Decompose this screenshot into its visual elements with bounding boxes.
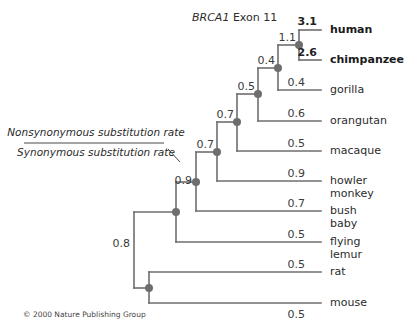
svg-text:0.5: 0.5: [288, 228, 306, 241]
taxon-rat: rat: [330, 265, 346, 278]
node-bushbaby: [192, 178, 200, 186]
terminal-rates: 3.1 2.6 0.4 0.6 0.5 0.9 0.7 0.5 0.5 0.5: [288, 15, 318, 321]
taxon-chimpanzee: chimpanzee: [330, 53, 404, 66]
taxon-gorilla: gorilla: [330, 83, 364, 96]
taxon-mouse: mouse: [330, 296, 367, 309]
node-flyinglemur: [172, 208, 180, 216]
internal-rates: 1.1 0.4 0.5 0.7 0.7 0.9 0.8: [113, 31, 297, 250]
svg-text:1.1: 1.1: [279, 31, 297, 44]
taxon-flyinglemur: flying: [330, 235, 360, 248]
legend-denominator: Synonymous substitution rate: [17, 146, 175, 158]
taxon-bushbaby-2: baby: [330, 217, 358, 230]
svg-text:0.5: 0.5: [288, 137, 306, 150]
svg-text:0.5: 0.5: [288, 308, 306, 321]
svg-text:0.6: 0.6: [288, 107, 306, 120]
node-gorilla: [274, 64, 282, 72]
svg-text:0.5: 0.5: [288, 258, 306, 271]
svg-text:0.7: 0.7: [288, 197, 306, 210]
svg-text:3.1: 3.1: [298, 15, 318, 28]
copyright: © 2000 Nature Publishing Group: [23, 310, 146, 319]
taxon-howler-2: monkey: [330, 187, 374, 200]
taxon-labels: human chimpanzee gorilla orangutan macaq…: [330, 23, 404, 309]
svg-text:0.8: 0.8: [113, 237, 131, 250]
phylogenetic-tree: BRCA1 Exon 11 Nonsynonymous substitution…: [0, 0, 405, 333]
taxon-bushbaby: bush: [330, 204, 357, 217]
nodes: [145, 41, 303, 292]
svg-text:2.6: 2.6: [298, 46, 318, 59]
taxon-macaque: macaque: [330, 144, 381, 157]
svg-text:0.9: 0.9: [288, 167, 306, 180]
node-macaque: [233, 118, 241, 126]
svg-text:0.4: 0.4: [288, 76, 306, 89]
svg-text:0.9: 0.9: [175, 174, 193, 187]
svg-text:0.7: 0.7: [217, 108, 235, 121]
node-root: [145, 284, 153, 292]
taxon-human: human: [330, 23, 372, 36]
taxon-flyinglemur-2: lemur: [330, 248, 363, 261]
svg-text:0.4: 0.4: [258, 54, 276, 67]
svg-text:0.7: 0.7: [197, 138, 215, 151]
svg-text:0.5: 0.5: [238, 80, 256, 93]
taxon-howler: howler: [330, 174, 368, 187]
taxon-orangutan: orangutan: [330, 114, 387, 127]
node-orangutan: [254, 90, 262, 98]
diagram-title: BRCA1 Exon 11: [192, 11, 277, 24]
legend-numerator: Nonsynonymous substitution rate: [7, 126, 185, 138]
node-howler: [213, 148, 221, 156]
